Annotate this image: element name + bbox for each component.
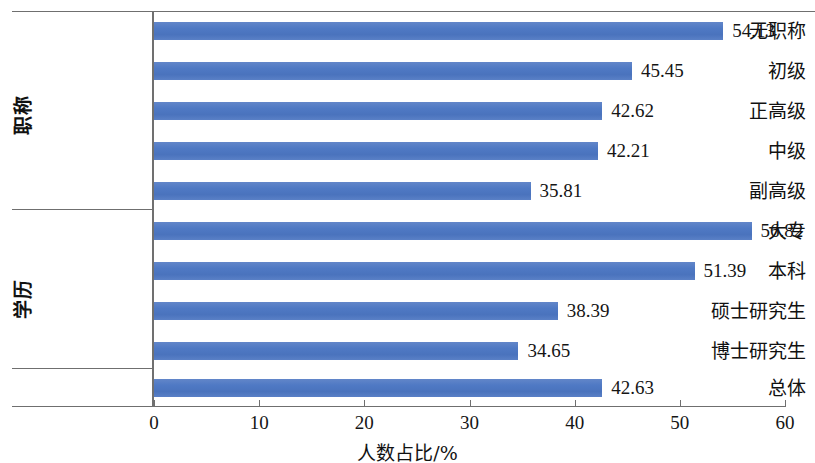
table-row: 正高级 42.62 (0, 91, 815, 131)
bar-value-label: 38.39 (567, 291, 610, 331)
bar-value-label: 42.21 (607, 131, 650, 171)
bar-container: 35.81 (154, 171, 815, 211)
bar (154, 22, 723, 40)
bar-container: 51.39 (154, 251, 815, 291)
bar-value-label: 51.39 (704, 251, 747, 291)
bar-container: 42.21 (154, 131, 815, 171)
bar (154, 342, 518, 360)
x-axis-tick (259, 400, 260, 407)
x-axis-tick (680, 400, 681, 407)
x-axis-tick (470, 400, 471, 407)
x-axis-tick (575, 400, 576, 407)
bar-value-label: 42.63 (611, 368, 654, 408)
bar-value-label: 35.81 (540, 171, 583, 211)
bar (154, 142, 598, 160)
table-row: 中级 42.21 (0, 131, 815, 171)
bar (154, 182, 531, 200)
bar-value-label: 56.82 (761, 211, 804, 251)
bar (154, 379, 602, 397)
bar-container: 34.65 (154, 331, 815, 371)
table-row: 大专 56.82 (0, 211, 815, 251)
x-axis-tick-label: 60 (755, 412, 815, 434)
bar-container: 56.82 (154, 211, 815, 251)
x-axis-tick-label: 20 (334, 412, 394, 434)
x-axis-tick-label: 0 (124, 412, 184, 434)
bar (154, 102, 602, 120)
bar-value-label: 45.45 (641, 51, 684, 91)
x-axis-tick-label: 40 (545, 412, 605, 434)
bar-container: 54.13 (154, 11, 815, 51)
table-row: 本科 51.39 (0, 251, 815, 291)
bar-container: 38.39 (154, 291, 815, 331)
x-axis-tick (154, 400, 155, 407)
table-row: 初级 45.45 (0, 51, 815, 91)
table-row: 副高级 35.81 (0, 171, 815, 211)
x-axis-tick-label: 30 (440, 412, 500, 434)
table-row: 总体 42.63 (0, 368, 815, 408)
bar-container: 45.45 (154, 51, 815, 91)
bar-container: 42.63 (154, 368, 815, 408)
x-axis-tick (785, 400, 786, 407)
x-axis-tick-label: 50 (650, 412, 710, 434)
bar (154, 262, 695, 280)
table-row: 硕士研究生 38.39 (0, 291, 815, 331)
x-axis-tick-label: 10 (229, 412, 289, 434)
bar-container: 42.62 (154, 91, 815, 131)
table-row: 博士研究生 34.65 (0, 331, 815, 371)
bar-value-label: 54.13 (732, 11, 775, 51)
x-axis-tick (364, 400, 365, 407)
x-axis-title: 人数占比/% (0, 438, 815, 463)
table-row: 无职称 54.13 (0, 11, 815, 51)
bar (154, 222, 752, 240)
bar (154, 62, 632, 80)
bar (154, 302, 558, 320)
bar-value-label: 34.65 (527, 331, 570, 371)
bar-value-label: 42.62 (611, 91, 654, 131)
horizontal-bar-chart: 职称 学历 无职称 54.13 初级 45.45 正高级 42.62 中级 42… (0, 0, 815, 463)
